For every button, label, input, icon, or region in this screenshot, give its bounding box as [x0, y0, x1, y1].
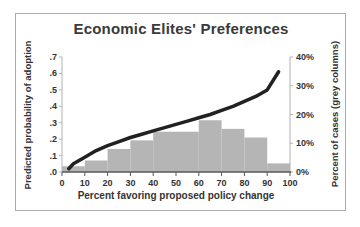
- histogram-bar: [244, 138, 267, 173]
- left-axis-tick-label: .7: [49, 52, 57, 62]
- x-axis-tick-label: 60: [194, 178, 204, 188]
- left-axis-tick-label: .6: [49, 68, 57, 78]
- x-axis-tick-label: 50: [171, 178, 181, 188]
- x-axis-tick-label: 30: [125, 178, 135, 188]
- histogram-bar: [108, 149, 131, 172]
- right-axis-tick-label: 0%: [296, 167, 309, 177]
- left-axis-tick-label: .4: [49, 101, 57, 111]
- x-axis-tick-label: 10: [80, 178, 90, 188]
- histogram-bar: [153, 132, 176, 172]
- x-axis-tick-label: 20: [103, 178, 113, 188]
- right-axis-tick-label: 10%: [296, 138, 314, 148]
- histogram-bar: [85, 161, 108, 173]
- x-axis-tick-label: 100: [282, 178, 297, 188]
- histogram-bar: [267, 163, 290, 172]
- chart-canvas: Economic Elites' Preferences Predicted p…: [0, 0, 360, 227]
- histogram-bar: [199, 120, 222, 172]
- left-axis-tick-label: .3: [49, 118, 57, 128]
- x-axis-tick-label: 0: [59, 178, 64, 188]
- left-axis-tick-label: .5: [49, 85, 57, 95]
- right-axis-tick-label: 20%: [296, 110, 314, 120]
- x-axis-title: Percent favoring proposed policy change: [62, 190, 290, 201]
- left-axis-tick-label: .0: [49, 167, 57, 177]
- left-axis-tick-label: .2: [49, 134, 57, 144]
- histogram-bar: [130, 140, 153, 172]
- left-axis-tick-label: .1: [49, 151, 57, 161]
- histogram-bar: [176, 132, 199, 172]
- right-axis-tick-label: 30%: [296, 81, 314, 91]
- histogram-bar: [62, 166, 85, 172]
- right-axis-tick-label: 40%: [296, 52, 314, 62]
- x-axis-tick-label: 70: [217, 178, 227, 188]
- x-axis-tick-label: 90: [262, 178, 272, 188]
- histogram-bar: [222, 129, 245, 172]
- x-axis-tick-label: 80: [239, 178, 249, 188]
- x-axis-tick-label: 40: [148, 178, 158, 188]
